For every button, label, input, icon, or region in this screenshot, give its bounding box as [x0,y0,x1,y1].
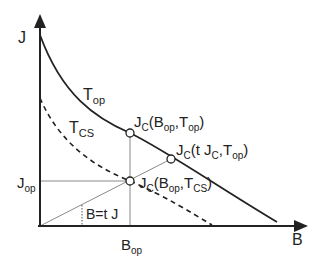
jop-label: Jop [17,174,36,194]
y-axis-label: J [18,29,26,46]
top-curve-label: Top [83,86,105,106]
point-jc-tjc-top [167,155,175,163]
critical-current-diagram: J B Top TCS JC(Bop,Top) JC(t JC,Top) JC(… [0,0,317,263]
load-line-label: B=t J [86,206,118,222]
label-jc-bop-top: JC(Bop,Top) [134,113,204,133]
point-jc-bop-top [126,129,134,137]
tcs-curve-label: TCS [69,119,94,139]
label-jc-tjc-top: JC(t JC,Top) [176,141,248,161]
label-jc-bop-tcs: JC(Bop,TCS) [139,174,212,194]
bop-label: Bop [121,236,143,256]
x-axis-label: B [292,231,303,248]
point-jc-bop-tcs [126,177,134,185]
